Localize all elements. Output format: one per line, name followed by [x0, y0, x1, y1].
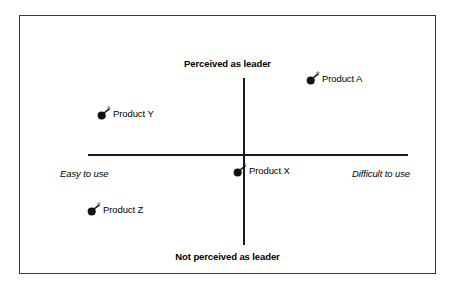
bomb-icon	[96, 106, 111, 121]
positioning-map-figure: Perceived as leader Not perceived as lea…	[0, 0, 455, 290]
axis-label-bottom: Not perceived as leader	[175, 251, 279, 262]
bomb-icon	[86, 202, 101, 217]
axis-label-top: Perceived as leader	[184, 58, 271, 69]
data-point-label: Product Y	[113, 108, 154, 119]
bomb-icon	[232, 163, 247, 178]
bomb-icon	[305, 71, 320, 86]
axis-label-right: Difficult to use	[352, 168, 410, 179]
data-point-label: Product X	[249, 165, 290, 176]
axis-label-left: Easy to use	[60, 168, 109, 179]
horizontal-axis	[88, 154, 408, 156]
data-point-label: Product A	[322, 73, 362, 84]
data-point-product-y: Product Y	[96, 106, 154, 121]
data-point-product-a: Product A	[305, 71, 362, 86]
data-point-label: Product Z	[103, 204, 143, 215]
vertical-axis	[243, 78, 245, 245]
figure-frame: Perceived as leader Not perceived as lea…	[19, 15, 436, 274]
data-point-product-x: Product X	[232, 163, 290, 178]
data-point-product-z: Product Z	[86, 202, 143, 217]
